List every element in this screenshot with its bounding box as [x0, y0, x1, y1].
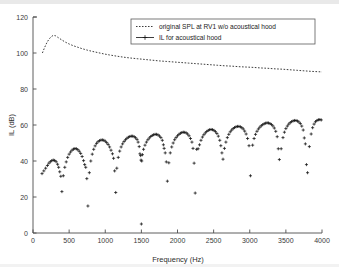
data-point-marker — [114, 191, 117, 194]
data-point-marker — [166, 180, 169, 183]
data-point-marker — [109, 149, 112, 152]
data-point-marker — [85, 177, 88, 180]
y-tick-label: 100 — [16, 50, 28, 57]
data-point-marker — [305, 163, 308, 166]
data-point-marker — [60, 190, 63, 193]
data-series-group — [40, 35, 322, 225]
data-point-marker — [283, 131, 286, 134]
data-point-marker — [302, 128, 305, 131]
data-point-marker — [221, 158, 224, 161]
data-point-marker — [142, 148, 145, 151]
data-point-marker — [84, 166, 87, 169]
data-point-marker — [169, 151, 172, 154]
il-marker-series — [40, 118, 322, 226]
data-point-marker — [199, 139, 202, 142]
data-point-marker — [190, 141, 193, 144]
x-tick-label: 3000 — [242, 237, 258, 244]
data-point-marker — [65, 160, 68, 163]
x-axis-title: Frequency (Hz) — [152, 255, 204, 264]
data-point-marker — [44, 167, 47, 170]
data-point-marker — [164, 151, 167, 154]
data-point-marker — [219, 144, 222, 147]
data-point-marker — [251, 144, 254, 147]
figure-canvas: 0204060801001200500100015002000250030003… — [0, 0, 339, 267]
y-tick-label: 40 — [20, 158, 28, 165]
data-point-marker — [89, 159, 92, 162]
data-point-marker — [249, 174, 252, 177]
data-point-marker — [218, 139, 221, 142]
data-point-marker — [112, 157, 115, 160]
data-point-marker — [220, 151, 223, 154]
data-point-marker — [138, 145, 141, 148]
data-point-marker — [253, 137, 256, 140]
data-point-marker — [88, 171, 91, 174]
data-point-marker — [170, 145, 173, 148]
x-tick-label: 2500 — [206, 237, 222, 244]
legend-label: IL for acoustical hood — [159, 34, 222, 41]
data-point-marker — [40, 172, 43, 175]
x-tick-label: 2000 — [170, 237, 186, 244]
chart-legend[interactable]: original SPL at RV1 w/o acoustical hoodI… — [131, 19, 315, 44]
data-point-marker — [118, 150, 121, 153]
data-point-marker — [280, 147, 283, 150]
data-point-marker — [217, 135, 220, 138]
data-point-marker — [277, 147, 280, 150]
y-tick-label: 20 — [20, 194, 28, 201]
data-point-marker — [161, 139, 164, 142]
data-point-marker — [254, 133, 257, 136]
data-point-marker — [245, 132, 248, 135]
data-point-marker — [226, 136, 229, 139]
data-point-marker — [193, 162, 196, 165]
x-tick-label: 500 — [63, 237, 75, 244]
x-tick-label: 0 — [31, 237, 35, 244]
y-axis-title: IL (dB) — [7, 113, 16, 136]
data-point-marker — [223, 147, 226, 150]
y-tick-label: 60 — [20, 122, 28, 129]
data-point-marker — [304, 142, 307, 145]
data-point-marker — [198, 143, 201, 146]
data-point-marker — [246, 137, 249, 140]
data-point-marker — [120, 145, 123, 148]
data-point-marker — [42, 169, 45, 172]
y-tick-label: 120 — [16, 14, 28, 21]
data-point-marker — [137, 141, 140, 144]
data-point-marker — [308, 145, 311, 148]
x-tick-label: 3500 — [278, 237, 294, 244]
data-point-marker — [111, 152, 114, 155]
data-point-marker — [162, 143, 165, 146]
axes-group: 0204060801001200500100015002000250030003… — [16, 14, 330, 244]
data-point-marker — [278, 158, 281, 161]
data-point-marker — [113, 169, 116, 172]
data-point-marker — [92, 148, 95, 151]
y-tick-label: 0 — [24, 230, 28, 237]
chart-plot-area: 0204060801001200500100015002000250030003… — [0, 0, 339, 267]
data-point-marker — [172, 141, 175, 144]
data-point-marker — [117, 156, 120, 159]
x-tick-label: 4000 — [314, 237, 330, 244]
data-point-marker — [91, 153, 94, 156]
data-point-marker — [303, 136, 306, 139]
data-point-marker — [81, 155, 84, 158]
legend-label: original SPL at RV1 w/o acoustical hood — [159, 23, 276, 31]
data-point-marker — [194, 191, 197, 194]
data-point-marker — [82, 159, 85, 162]
data-point-marker — [224, 141, 227, 144]
data-point-marker — [140, 222, 143, 225]
data-point-marker — [310, 132, 313, 135]
x-tick-label: 1500 — [134, 237, 150, 244]
data-point-marker — [58, 170, 61, 173]
data-point-marker — [143, 144, 146, 147]
data-point-marker — [83, 163, 86, 166]
x-tick-label: 1000 — [97, 237, 113, 244]
data-point-marker — [62, 174, 65, 177]
data-point-marker — [191, 147, 194, 150]
data-point-marker — [86, 204, 89, 207]
data-point-marker — [311, 126, 314, 129]
data-point-marker — [281, 136, 284, 139]
data-point-marker — [66, 156, 69, 159]
y-tick-label: 80 — [20, 86, 28, 93]
data-point-marker — [274, 130, 277, 133]
data-point-marker — [57, 166, 60, 169]
data-point-marker — [306, 171, 309, 174]
data-point-marker — [163, 147, 166, 150]
